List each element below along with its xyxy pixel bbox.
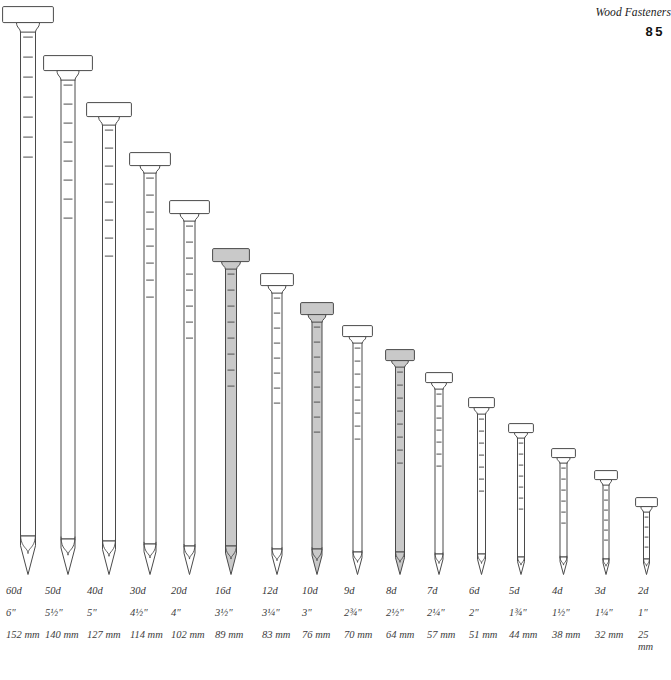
label-penny-size: 12d [262,585,290,596]
label-penny-size: 50d [45,585,79,596]
nail-30d [129,152,171,575]
nail-neck [268,286,286,294]
nail-tip [478,554,486,575]
nail-3d [594,470,618,575]
label-penny-size: 5d [509,585,537,596]
nail-head [552,449,576,458]
label-inches: 3" [302,607,330,618]
nail-tip [396,552,405,575]
label-millimeters: 25 mm [638,629,664,653]
label-penny-size: 60d [6,585,40,596]
nail-tip [272,549,282,575]
nail-head [170,201,210,214]
nail-tip [184,546,195,575]
nail-tip [144,544,156,575]
nail-shank [312,322,322,549]
nail-head [44,56,93,71]
nail-shank [644,512,650,559]
label-millimeters: 152 mm [6,629,40,640]
label-millimeters: 140 mm [45,629,79,640]
nail-shank [396,367,405,552]
nail-label-3d: 3d1¼"32 mm [595,585,623,640]
nail-shank [518,438,525,557]
nail-neck [57,71,79,81]
nail-head [343,326,373,337]
nail-shank [61,80,75,539]
label-millimeters: 70 mm [344,629,372,640]
label-inches: 1" [638,607,664,618]
label-millimeters: 64 mm [386,629,414,640]
nail-neck [222,262,241,270]
nail-head [386,350,415,361]
nail-head [595,471,618,480]
nail-neck [349,337,366,344]
label-penny-size: 20d [171,585,205,596]
nail-7d [425,372,453,575]
nail-20d [169,200,210,575]
nail-label-8d: 8d2½"64 mm [386,585,414,640]
nail-label-20d: 20d4"102 mm [171,585,205,640]
nail-label-30d: 30d4½"114 mm [130,585,163,640]
label-penny-size: 4d [552,585,580,596]
nail-shank [103,125,116,541]
label-penny-size: 2d [638,585,664,596]
label-millimeters: 102 mm [171,629,205,640]
label-millimeters: 32 mm [595,629,623,640]
nail-head [261,274,294,286]
label-penny-size: 10d [302,585,330,596]
nail-4d [551,448,576,575]
label-inches: 2¾" [344,607,372,618]
nail-neck [17,23,40,33]
label-penny-size: 40d [87,585,121,596]
nail-9d [342,325,373,575]
label-millimeters: 38 mm [552,629,580,640]
nail-head [130,153,171,166]
nail-shank [435,389,443,554]
nail-16d [212,248,250,575]
nail-head [636,498,658,507]
nail-6d [468,397,495,575]
nail-size-diagram [0,0,671,585]
label-penny-size: 16d [215,585,243,596]
nail-shank [21,32,36,536]
nail-neck [308,315,326,323]
nail-shank [603,485,609,559]
nail-head [301,303,334,315]
label-inches: 2¼" [427,607,455,618]
nail-tip [435,554,443,575]
nail-label-row: 60d6"152 mm50d5½"140 mm40d5"127 mm30d4½"… [0,585,671,680]
label-millimeters: 51 mm [469,629,497,640]
label-penny-size: 30d [130,585,163,596]
nail-shank [478,414,486,554]
label-millimeters: 89 mm [215,629,243,640]
label-inches: 2½" [386,607,414,618]
nail-label-9d: 9d2¾"70 mm [344,585,372,640]
label-millimeters: 127 mm [87,629,121,640]
label-penny-size: 7d [427,585,455,596]
label-inches: 1¼" [595,607,623,618]
label-inches: 1½" [552,607,580,618]
nail-head [87,103,132,117]
nail-neck [99,117,120,126]
page-canvas: Wood Fasteners 85 60d6"152 mm50d5½"140 m… [0,0,671,680]
nail-shank [560,463,567,557]
label-penny-size: 9d [344,585,372,596]
nail-neck [474,408,489,415]
nail-label-10d: 10d3"76 mm [302,585,330,640]
nail-label-6d: 6d2"51 mm [469,585,497,640]
nail-neck [180,214,199,222]
nail-neck [140,166,160,174]
nail-label-16d: 16d3½"89 mm [215,585,243,640]
label-inches: 3½" [215,607,243,618]
label-inches: 1¾" [509,607,537,618]
nail-8d [385,349,415,575]
nail-tip [312,549,322,575]
nail-head [509,424,534,433]
label-inches: 4½" [130,607,163,618]
label-inches: 5" [87,607,121,618]
label-inches: 3¼" [262,607,290,618]
nail-tip [353,552,362,575]
nail-2d [635,497,658,575]
nail-shank [184,221,195,546]
nail-10d [300,302,334,575]
